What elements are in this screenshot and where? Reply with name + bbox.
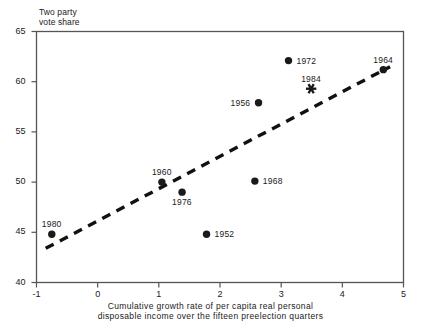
x-tick-label: 5 bbox=[392, 289, 416, 299]
data-point-marker bbox=[380, 66, 387, 73]
trendline-segment bbox=[46, 67, 390, 249]
data-point-label: 1976 bbox=[172, 197, 192, 207]
x-tick-label: 0 bbox=[86, 289, 110, 299]
data-points bbox=[48, 57, 387, 238]
data-point-marker bbox=[251, 177, 258, 184]
data-point-label: 1980 bbox=[42, 219, 62, 229]
plot-canvas bbox=[0, 0, 421, 331]
y-tick-label: 45 bbox=[4, 226, 26, 236]
data-point-marker bbox=[203, 231, 210, 238]
x-tick-label: 1 bbox=[147, 289, 171, 299]
x-tick-label: -1 bbox=[25, 289, 49, 299]
x-tick-label: 3 bbox=[269, 289, 293, 299]
y-tick-label: 60 bbox=[4, 76, 26, 86]
data-point-marker bbox=[178, 188, 185, 195]
data-point-label: 1968 bbox=[263, 176, 283, 186]
data-point-marker bbox=[255, 99, 262, 106]
x-axis-title: Cumulative growth rate of per capita rea… bbox=[0, 301, 421, 321]
data-point-asterisk bbox=[306, 84, 316, 93]
trendline bbox=[46, 67, 390, 249]
x-tick-marks bbox=[37, 283, 404, 288]
data-point-label: 1964 bbox=[373, 55, 393, 65]
data-point-label: 1952 bbox=[215, 229, 235, 239]
x-tick-label: 4 bbox=[330, 289, 354, 299]
y-tick-label: 55 bbox=[4, 126, 26, 136]
data-point-label: 1960 bbox=[152, 167, 172, 177]
scatter-chart-figure: Two party vote share Cumulative growth r… bbox=[0, 0, 421, 331]
y-tick-label: 40 bbox=[4, 277, 26, 287]
y-tick-label: 50 bbox=[4, 176, 26, 186]
y-tick-marks bbox=[32, 32, 37, 283]
x-tick-label: 2 bbox=[208, 289, 232, 299]
data-point-marker bbox=[285, 57, 292, 64]
y-tick-label: 65 bbox=[4, 26, 26, 36]
data-point-marker bbox=[48, 231, 55, 238]
data-point-label: 1956 bbox=[231, 98, 251, 108]
y-axis-title: Two party vote share bbox=[39, 7, 80, 27]
data-point-label: 1972 bbox=[297, 56, 317, 66]
data-point-marker bbox=[158, 178, 165, 185]
data-point-label: 1984 bbox=[301, 74, 321, 84]
